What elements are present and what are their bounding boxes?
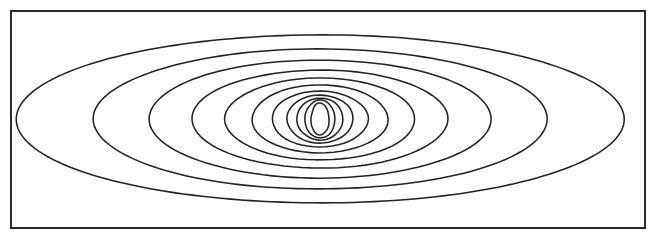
contour-line-group: [16, 35, 624, 203]
plot-frame: [11, 11, 645, 228]
contour-line-level-2: [305, 100, 335, 138]
contour-line-level-1: [311, 103, 329, 135]
contour-plot-figure: [0, 0, 655, 236]
contour-line-level-3: [297, 98, 343, 140]
contour-plot-canvas: [0, 0, 655, 236]
